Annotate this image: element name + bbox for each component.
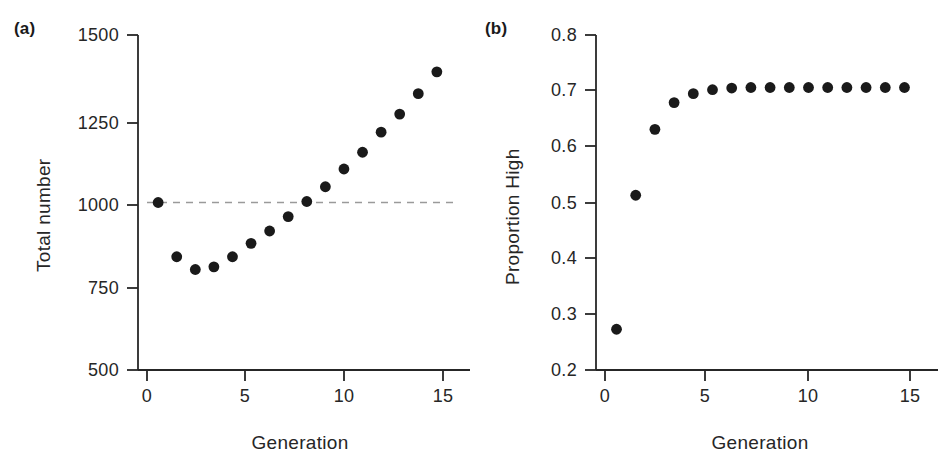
data-point xyxy=(822,82,833,93)
x-axis-title: Generation xyxy=(251,432,348,454)
y-tick-label: 0.6 xyxy=(475,136,577,157)
data-point xyxy=(413,88,424,99)
y-axis-title: Total number xyxy=(33,159,55,272)
y-tick-label: 0.5 xyxy=(475,193,577,214)
y-tick-label: 1500 xyxy=(0,25,119,46)
figure-container: (a) 500750100012501500051015GenerationTo… xyxy=(0,0,950,474)
y-tick-label: 750 xyxy=(0,278,119,299)
data-point xyxy=(630,190,641,201)
data-point xyxy=(803,82,814,93)
data-point xyxy=(899,82,910,93)
x-tick-label: 5 xyxy=(700,386,710,407)
y-tick-label: 1000 xyxy=(0,195,119,216)
y-axis-title: Proportion High xyxy=(502,148,524,285)
data-point xyxy=(765,82,776,93)
x-tick-label: 0 xyxy=(600,386,610,407)
data-point xyxy=(394,109,405,120)
data-point xyxy=(320,181,331,192)
y-tick-label: 0.4 xyxy=(475,248,577,269)
data-point xyxy=(707,84,718,95)
data-point xyxy=(208,261,219,272)
panel-a-plot xyxy=(0,0,475,474)
data-point xyxy=(746,82,757,93)
x-tick-label: 5 xyxy=(240,386,250,407)
panel-b-plot xyxy=(475,0,950,474)
data-point xyxy=(669,97,680,108)
data-point xyxy=(339,164,350,175)
data-point xyxy=(611,324,622,335)
data-point xyxy=(171,251,182,262)
y-tick-label: 1250 xyxy=(0,113,119,134)
data-point xyxy=(283,211,294,222)
data-point xyxy=(650,124,661,135)
data-point xyxy=(431,66,442,77)
data-point xyxy=(153,197,164,208)
data-point xyxy=(301,196,312,207)
data-point xyxy=(246,238,257,249)
y-tick-label: 0.2 xyxy=(475,360,577,381)
y-tick-label: 0.8 xyxy=(475,25,577,46)
data-point xyxy=(726,83,737,94)
data-point xyxy=(227,251,238,262)
y-tick-label: 500 xyxy=(0,360,119,381)
x-tick-label: 10 xyxy=(334,386,355,407)
x-axis-title: Generation xyxy=(711,432,808,454)
data-point xyxy=(841,82,852,93)
data-point xyxy=(264,226,275,237)
y-tick-label: 0.3 xyxy=(475,304,577,325)
x-tick-label: 10 xyxy=(798,386,819,407)
panel-a: (a) 500750100012501500051015GenerationTo… xyxy=(0,0,475,474)
x-tick-label: 0 xyxy=(142,386,152,407)
x-tick-label: 15 xyxy=(433,386,454,407)
data-point xyxy=(376,127,387,138)
y-tick-label: 0.7 xyxy=(475,80,577,101)
data-point xyxy=(784,82,795,93)
data-point xyxy=(861,82,872,93)
data-point xyxy=(190,264,201,275)
data-point xyxy=(357,147,368,158)
x-tick-label: 15 xyxy=(900,386,921,407)
data-point xyxy=(688,88,699,99)
panel-b: (b) 0.20.30.40.50.60.70.8051015Generatio… xyxy=(475,0,950,474)
data-point xyxy=(880,82,891,93)
